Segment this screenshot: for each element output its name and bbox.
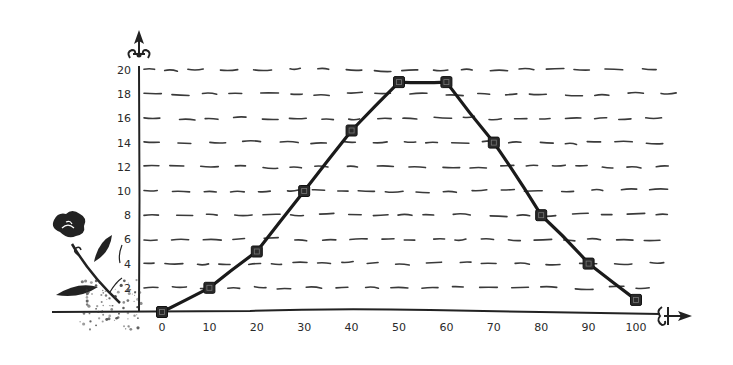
- x-tick-label: 10: [202, 321, 216, 334]
- data-point-marker: [583, 258, 594, 269]
- y-tick-label: 4: [124, 258, 131, 271]
- grid-dash: [588, 239, 601, 240]
- grid-dash: [595, 95, 609, 96]
- grid-dash: [605, 69, 623, 70]
- grid-dash: [540, 142, 553, 143]
- grid-dash: [460, 262, 471, 263]
- grid-dash: [478, 93, 490, 94]
- grid-dash: [358, 191, 374, 192]
- y-tick-label: 6: [124, 233, 131, 246]
- grid-dash: [144, 190, 157, 191]
- grid-dash: [349, 119, 360, 120]
- grid-dash: [318, 263, 331, 264]
- grid-dash: [422, 287, 438, 288]
- grid-dash: [144, 69, 155, 70]
- grid-dash: [642, 69, 656, 70]
- x-tick-label: 20: [250, 321, 264, 334]
- grid-dash: [255, 287, 266, 288]
- grid-dash: [566, 95, 583, 96]
- x-tick-label: 90: [582, 321, 596, 334]
- grid-dash: [541, 287, 557, 288]
- data-series-line: [162, 82, 636, 312]
- grid-dash: [515, 263, 529, 264]
- grid-dash: [575, 289, 593, 290]
- y-axis: [128, 30, 149, 312]
- grid-dash: [374, 71, 390, 72]
- grid-dash: [595, 118, 607, 119]
- grid-dash: [646, 118, 662, 119]
- data-point-marker: [394, 77, 405, 88]
- y-tick-label: 20: [117, 64, 131, 77]
- data-point-marker: [488, 137, 499, 148]
- grid-dash: [291, 215, 304, 216]
- data-point-marker: [346, 125, 357, 136]
- grid-dash: [426, 262, 441, 263]
- y-tick-label: 14: [117, 137, 131, 150]
- grid-dash: [373, 142, 387, 143]
- x-tick-label: 70: [487, 321, 501, 334]
- grid-dash: [391, 287, 408, 288]
- grid-dash: [234, 117, 246, 118]
- grid-dash: [573, 213, 589, 214]
- grid-dash: [506, 94, 517, 95]
- grid-dash: [205, 118, 218, 119]
- grid-dash: [627, 167, 641, 168]
- grid-dash: [289, 118, 306, 119]
- grid-dash: [455, 239, 466, 240]
- y-tick-label: 12: [117, 161, 131, 174]
- grid-dash: [198, 264, 209, 265]
- grid-dash: [650, 189, 668, 190]
- grid-dash: [396, 264, 410, 265]
- grid-dash: [443, 191, 456, 192]
- grid-dash: [288, 190, 299, 191]
- grid-dash: [249, 263, 261, 264]
- grid-dash: [574, 69, 589, 70]
- grid-dash: [204, 191, 216, 192]
- grid-dash: [306, 287, 321, 288]
- grid-dash: [165, 263, 183, 264]
- grid-dash: [202, 93, 216, 94]
- grid-dash: [426, 142, 438, 143]
- grid-dash: [592, 189, 603, 190]
- grid-dash: [323, 240, 336, 241]
- grid-dash: [534, 239, 552, 240]
- grid-dash: [472, 190, 487, 191]
- grid-dash: [519, 68, 534, 69]
- grid-dash: [220, 70, 237, 71]
- x-axis: [52, 307, 692, 325]
- grid-dash: [385, 191, 403, 192]
- grid-dash: [366, 287, 379, 288]
- grid-dash: [271, 264, 281, 265]
- grid-dash: [254, 70, 272, 71]
- grid-dash: [350, 239, 367, 240]
- grid-dash: [144, 118, 160, 119]
- grid-dash: [311, 143, 326, 144]
- data-point-marker: [631, 294, 642, 305]
- grid-lines: [144, 68, 676, 289]
- grid-dash: [144, 142, 159, 143]
- x-tick-label: 0: [159, 321, 166, 334]
- x-tick-label: 30: [297, 321, 311, 334]
- grid-dash: [453, 214, 470, 215]
- x-tick-label: 40: [345, 321, 359, 334]
- grid-dash: [565, 143, 576, 144]
- grid-dash: [628, 92, 643, 93]
- grid-dash: [602, 167, 613, 168]
- y-tick-label: 10: [117, 185, 131, 198]
- y-tick-label: 18: [117, 88, 131, 101]
- grid-dash: [434, 70, 448, 71]
- grid-dash: [619, 119, 631, 120]
- grid-dash: [661, 93, 676, 94]
- grid-dash: [565, 118, 580, 119]
- grid-dash: [314, 95, 329, 96]
- x-tick-label: 100: [626, 321, 647, 334]
- grid-dash: [552, 165, 565, 166]
- grid-dash: [650, 263, 664, 264]
- grid-dash: [203, 239, 221, 240]
- grid-dash: [508, 240, 520, 241]
- y-tick-label: 8: [124, 209, 131, 222]
- grid-dash: [172, 287, 186, 288]
- grid-dash: [615, 264, 632, 265]
- grid-dash: [290, 167, 301, 168]
- grid-dash: [526, 165, 537, 166]
